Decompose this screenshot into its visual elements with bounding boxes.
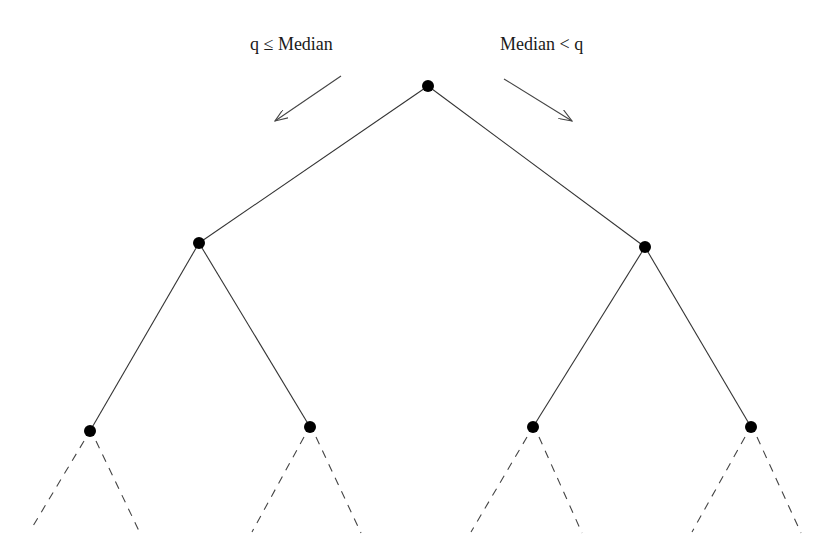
- right-left-node: [527, 421, 539, 433]
- edge-right-rightright: [645, 247, 751, 427]
- dashed-edge: [539, 437, 582, 533]
- dashed-edge: [252, 437, 304, 532]
- edge-right-rightleft: [533, 247, 645, 427]
- dashed-edge: [30, 441, 84, 531]
- dashed-edge: [316, 437, 361, 533]
- left-left-node: [84, 425, 96, 437]
- dashed-edge: [96, 441, 140, 533]
- tree-nodes: [84, 80, 757, 437]
- dashed-edge: [692, 437, 745, 532]
- edge-left-leftright: [199, 243, 310, 427]
- dashed-edge: [471, 437, 527, 532]
- binary-tree-diagram: q ≤ Median Median < q: [0, 0, 826, 557]
- right-arrow-icon: [504, 79, 572, 121]
- edge-root-right: [428, 86, 645, 247]
- dashed-edge: [757, 437, 801, 533]
- right-right-node: [745, 421, 757, 433]
- right-branch-label: Median < q: [500, 34, 583, 54]
- left-right-node: [304, 421, 316, 433]
- left-arrow-icon: [275, 76, 341, 121]
- right-node: [639, 241, 651, 253]
- left-node: [193, 237, 205, 249]
- dashed-edges: [30, 437, 801, 533]
- root-node: [422, 80, 434, 92]
- left-branch-label: q ≤ Median: [250, 34, 333, 54]
- solid-edges: [90, 86, 751, 431]
- edge-root-left: [199, 86, 428, 243]
- edge-left-leftleft: [90, 243, 199, 431]
